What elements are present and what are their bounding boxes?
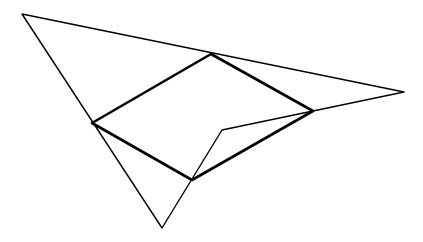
outer-concave-quadrilateral [22, 14, 404, 228]
geometry-diagram [0, 0, 423, 242]
